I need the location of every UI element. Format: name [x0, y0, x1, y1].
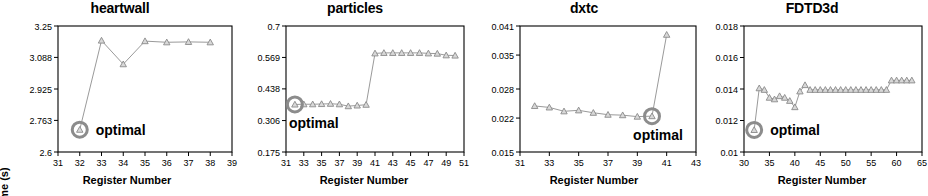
data-line — [80, 41, 211, 130]
chart-plot-fdtd3d: 0.010.0120.0140.0160.0183035404550556065… — [704, 0, 928, 196]
x-tick-label: 38 — [205, 158, 215, 168]
y-tick-label: 2.6 — [39, 148, 52, 158]
x-tick-label: 37 — [334, 158, 344, 168]
x-tick-label: 39 — [632, 158, 642, 168]
x-axis-label-heartwall: Register Number — [22, 174, 232, 186]
y-tick-label: 0.018 — [715, 22, 738, 32]
x-tick-label: 45 — [815, 158, 825, 168]
x-tick-label: 60 — [892, 158, 902, 168]
x-tick-label: 65 — [917, 158, 927, 168]
y-tick-label: 3.088 — [29, 53, 52, 63]
optimal-label: optimal — [289, 115, 339, 131]
x-tick-label: 39 — [227, 158, 237, 168]
y-tick-label: 0.035 — [491, 51, 514, 61]
x-tick-label: 36 — [162, 158, 172, 168]
figure-panel-row: heartwall Kernel Time (s) 2.62.7632.9253… — [0, 0, 928, 196]
chart-plot-heartwall: 2.62.7632.9253.0883.25313233343536373839… — [0, 0, 240, 196]
data-point-marker — [766, 94, 772, 100]
data-point-marker — [98, 37, 104, 43]
y-tick-label: 2.925 — [29, 85, 52, 95]
x-tick-label: 32 — [75, 158, 85, 168]
x-tick-label: 43 — [691, 158, 701, 168]
data-point-marker — [751, 127, 757, 133]
chart-panel-fdtd3d: FDTD3d 0.010.0120.0140.0160.018303540455… — [704, 0, 928, 196]
y-tick-label: 0.016 — [715, 53, 738, 63]
x-tick-label: 35 — [140, 158, 150, 168]
y-tick-label: 0.438 — [257, 84, 280, 94]
y-tick-label: 0.015 — [491, 148, 514, 158]
x-tick-label: 45 — [406, 158, 416, 168]
chart-panel-heartwall: heartwall Kernel Time (s) 2.62.7632.9253… — [0, 0, 240, 196]
x-axis-label-fdtd3d: Register Number — [724, 174, 920, 186]
x-tick-label: 35 — [574, 158, 584, 168]
chart-plot-dxtc: 0.0150.0220.0280.0350.04131333537394143o… — [474, 0, 704, 196]
x-tick-label: 47 — [423, 158, 433, 168]
data-point-marker — [802, 82, 808, 88]
y-tick-label: 0.022 — [491, 114, 514, 124]
optimal-label: optimal — [96, 122, 146, 138]
data-point-marker — [77, 127, 83, 133]
y-tick-label: 3.25 — [34, 22, 52, 32]
data-line — [535, 35, 667, 117]
y-tick-label: 0.7 — [267, 22, 280, 32]
x-tick-label: 33 — [299, 158, 309, 168]
optimal-label: optimal — [633, 127, 683, 143]
x-tick-label: 55 — [866, 158, 876, 168]
y-tick-label: 0.014 — [715, 85, 738, 95]
x-tick-label: 33 — [96, 158, 106, 168]
y-tick-label: 0.306 — [257, 116, 280, 126]
chart-panel-particles: particles 0.1750.3060.4380.5690.73133353… — [240, 0, 474, 196]
x-tick-label: 30 — [739, 158, 749, 168]
x-tick-label: 43 — [388, 158, 398, 168]
x-tick-label: 37 — [183, 158, 193, 168]
x-tick-label: 51 — [459, 158, 469, 168]
x-tick-label: 41 — [370, 158, 380, 168]
x-tick-label: 31 — [281, 158, 291, 168]
x-tick-label: 33 — [544, 158, 554, 168]
data-point-marker — [776, 93, 782, 99]
chart-panel-dxtc: dxtc 0.0150.0220.0280.0350.0413133353739… — [474, 0, 704, 196]
y-tick-label: 0.028 — [491, 85, 514, 95]
optimal-label: optimal — [770, 122, 820, 138]
data-point-marker — [663, 32, 669, 38]
data-line — [295, 53, 455, 106]
x-tick-label: 39 — [352, 158, 362, 168]
x-tick-label: 31 — [515, 158, 525, 168]
x-tick-label: 50 — [841, 158, 851, 168]
data-point-marker — [756, 85, 762, 91]
x-axis-label-dxtc: Register Number — [496, 174, 692, 186]
y-tick-label: 0.041 — [491, 22, 514, 32]
data-point-marker — [531, 103, 537, 109]
x-tick-label: 35 — [764, 158, 774, 168]
y-tick-label: 0.175 — [257, 148, 280, 158]
x-axis-label-particles: Register Number — [264, 174, 464, 186]
y-tick-label: 0.012 — [715, 116, 738, 126]
y-tick-label: 0.569 — [257, 53, 280, 63]
x-tick-label: 41 — [662, 158, 672, 168]
chart-plot-particles: 0.1750.3060.4380.5690.731333537394143454… — [240, 0, 474, 196]
y-tick-label: 0.01 — [720, 148, 738, 158]
y-tick-label: 2.763 — [29, 116, 52, 126]
x-tick-label: 40 — [790, 158, 800, 168]
x-tick-label: 34 — [118, 158, 128, 168]
x-tick-label: 35 — [317, 158, 327, 168]
x-tick-label: 31 — [53, 158, 63, 168]
x-tick-label: 49 — [441, 158, 451, 168]
x-tick-label: 37 — [603, 158, 613, 168]
plot-frame — [286, 26, 464, 152]
